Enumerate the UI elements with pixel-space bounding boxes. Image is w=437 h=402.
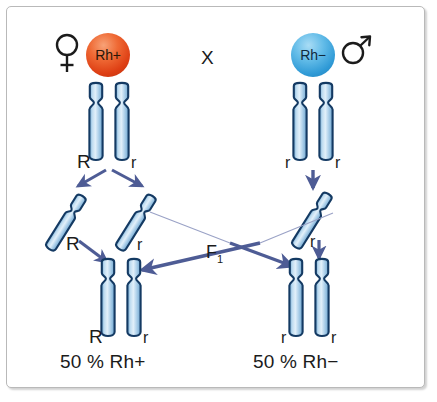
cross-symbol: X [201,48,214,67]
maternal-gamete-label-r: r [137,237,142,253]
offspring-right-allele-left: r [281,330,286,346]
rh-positive-label: Rh+ [95,47,120,63]
rh-positive-marker: Rh+ [86,33,130,77]
rh-negative-marker: Rh− [291,33,335,77]
paternal-gamete-label-r: r [310,234,315,250]
maternal-chromosome-pair [89,83,128,160]
offspring-right-result: 50 % Rh− [253,352,339,371]
male-sex-icon [340,32,374,70]
maternal-allele-right: r [131,155,136,171]
offspring-chromosome-pair-left [101,259,140,336]
offspring-left-allele-left: R [89,327,103,346]
paternal-allele-left: r [285,155,290,171]
offspring-right-allele-right: r [331,330,336,346]
female-sex-icon [52,32,82,80]
paternal-allele-right: r [335,155,340,171]
maternal-allele-left: R [77,152,91,171]
maternal-gamete-label-R: R [66,234,80,253]
offspring-left-result: 50 % Rh+ [60,352,146,371]
f1-generation-label: F1 [206,243,223,265]
rh-negative-label: Rh− [300,47,325,63]
maternal-gamete-r [115,193,158,252]
f1-subscript: 1 [217,253,223,265]
offspring-left-allele-right: r [143,330,148,346]
rh-inheritance-diagram: Rh+ Rh− X R r r r R r r F1 R r r r 50 % … [0,0,437,402]
maternal-meiosis-arrows [78,170,142,186]
f1-letter: F [206,242,217,262]
offspring-chromosome-pair-right [289,259,328,336]
paternal-chromosome-pair [293,83,332,160]
